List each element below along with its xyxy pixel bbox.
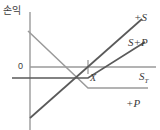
series-label-long-stock: +S [134, 12, 147, 23]
series-label-long-put: +P [126, 98, 140, 109]
payoff-diagram: 손익 0 +S S+P +P X ST [0, 0, 160, 130]
strike-price-label: X [90, 73, 96, 83]
x-axis-label-subscript: T [145, 77, 149, 85]
y-axis-label: 손익 [3, 6, 21, 16]
zero-level-label: 0 [18, 62, 23, 71]
x-axis-label: ST [139, 71, 148, 85]
series-label-stock-plus-put: S+P [128, 37, 148, 48]
stock-plus-put-curve [12, 42, 145, 78]
